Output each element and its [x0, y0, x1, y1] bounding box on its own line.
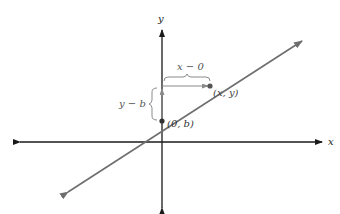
y-axis-label: y — [157, 13, 164, 24]
slope-intercept-diagram: x y x − 0 y − b (0, b) (x, y) — [0, 0, 340, 214]
horizontal-brace — [164, 74, 210, 81]
horizontal-brace-label: x − 0 — [177, 61, 204, 72]
y-intercept-label: (0, b) — [167, 118, 194, 129]
vertical-brace — [149, 88, 157, 120]
vertical-brace-label: y − b — [118, 98, 146, 109]
general-point-label: (x, y) — [213, 87, 239, 98]
x-axis-label: x — [328, 136, 334, 147]
general-point — [207, 83, 212, 88]
y-intercept-point — [159, 118, 164, 123]
